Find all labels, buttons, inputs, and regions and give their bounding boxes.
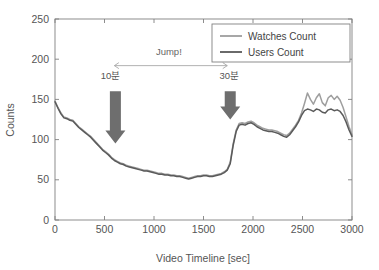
x-tick-label: 0 — [52, 223, 58, 235]
y-tick-label: 0 — [43, 214, 49, 226]
y-tick-label: 200 — [31, 53, 49, 65]
y-axis-title: Counts — [4, 103, 16, 136]
arrow-label-end: 30분 — [219, 70, 239, 81]
y-tick-label: 100 — [31, 133, 49, 145]
x-tick-label: 2500 — [291, 223, 315, 235]
legend-label-0: Watches Count — [248, 31, 316, 42]
chart-legend: Watches CountUsers Count — [212, 24, 350, 62]
legend-label-1: Users Count — [248, 47, 304, 58]
x-tick-label: 2000 — [241, 223, 265, 235]
x-tick-label: 1500 — [192, 223, 216, 235]
jump-label: Jump! — [156, 46, 182, 57]
x-tick-label: 3000 — [340, 223, 364, 235]
x-tick-label: 1000 — [142, 223, 166, 235]
y-tick-label: 150 — [31, 93, 49, 105]
line-chart: 050100150200250 050010001500200025003000… — [0, 0, 379, 270]
arrow-label-start: 10분 — [101, 70, 121, 81]
y-tick-label: 250 — [31, 13, 49, 25]
x-tick-label: 500 — [96, 223, 114, 235]
chart-figure: 050100150200250 050010001500200025003000… — [0, 0, 379, 270]
y-tick-label: 50 — [37, 173, 49, 185]
x-axis-title: Video Timeline [sec] — [156, 252, 250, 264]
